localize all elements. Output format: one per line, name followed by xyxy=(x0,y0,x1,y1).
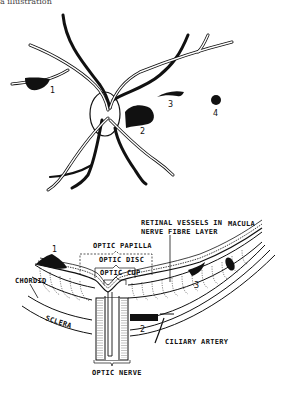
fundus-view: 1 2 3 4 xyxy=(12,15,232,190)
section-lesion-1 xyxy=(36,254,67,269)
optic-nerve-bracket xyxy=(94,360,130,366)
label-macula: MACULA xyxy=(228,220,256,228)
cross-section: RETINAL VESSELS IN NERVE FIBRE LAYER MAC… xyxy=(15,219,275,377)
chorioid-leader xyxy=(30,284,38,298)
label-retinal-vessels-2: NERVE FIBRE LAYER xyxy=(141,228,218,236)
section-label-2: 2 xyxy=(140,325,145,334)
label-optic-disc: OPTIC DISC xyxy=(99,256,144,264)
label-optic-cup: OPTIC CUP xyxy=(100,269,141,277)
macular-lesion xyxy=(223,256,236,272)
fundus-label-3: 3 xyxy=(168,100,173,109)
section-label-1: 1 xyxy=(52,245,57,254)
section-label-3: 3 xyxy=(194,281,199,290)
label-optic-papilla: OPTIC PAPILLA xyxy=(93,242,152,250)
lesion-3 xyxy=(157,91,184,97)
label-retinal-vessels-1: RETINAL VESSELS IN xyxy=(141,219,222,227)
optic-cup-bracket xyxy=(104,277,126,285)
lesion-2 xyxy=(125,105,154,128)
label-chorioid: CHORDID xyxy=(15,277,47,285)
section-lesion-3 xyxy=(188,262,205,276)
arteries xyxy=(12,35,232,190)
fundus-label-4: 4 xyxy=(213,109,218,118)
section-lesion-2 xyxy=(130,314,158,321)
label-optic-nerve: OPTIC NERVE xyxy=(92,369,142,377)
lesion-4 xyxy=(211,95,221,105)
fundus-label-2: 2 xyxy=(140,127,145,136)
label-sclera: SCLERA xyxy=(44,314,73,330)
optic-nerve xyxy=(96,292,128,360)
optic-disc-diagram: a illustration xyxy=(0,0,285,394)
label-ciliary-artery: CILIARY ARTERY xyxy=(165,338,229,346)
fundus-label-1: 1 xyxy=(50,86,55,95)
header-cut-text: a illustration xyxy=(0,0,52,6)
lesion-1 xyxy=(25,78,50,91)
